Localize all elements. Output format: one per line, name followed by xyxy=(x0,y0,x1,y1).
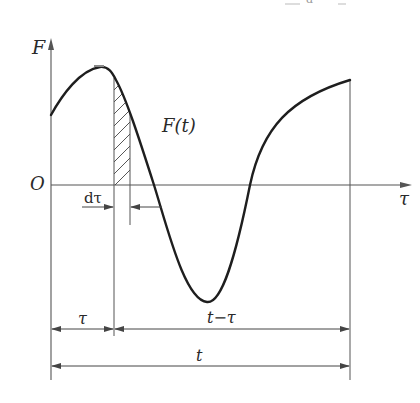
top-fragment-label: d xyxy=(306,0,313,5)
dim-tau-label: τ xyxy=(78,311,87,327)
dtau-label: dτ xyxy=(84,191,102,206)
dim-t-label: t xyxy=(196,348,202,364)
axis-y-label: F xyxy=(32,38,45,57)
x-axis xyxy=(51,182,412,188)
diagram-graphics xyxy=(0,0,420,403)
convolution-diagram: d F τ O F(t) dτ τ t−τ t xyxy=(0,0,420,403)
dim-t-minus-tau-label: t−τ xyxy=(207,310,236,326)
origin-label: O xyxy=(30,175,45,193)
axis-x-label: τ xyxy=(399,190,409,208)
curve-label: F(t) xyxy=(162,117,196,135)
